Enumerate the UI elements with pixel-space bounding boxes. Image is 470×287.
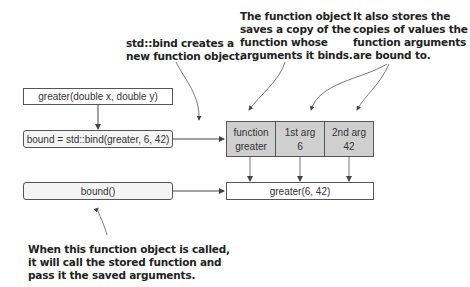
result-call-text: greater(6, 42) bbox=[270, 186, 331, 197]
cell-1st-arg-header: 1st arg bbox=[285, 127, 316, 138]
bind-statement-text: bound = std::bind(greater, 6, 42) bbox=[27, 134, 170, 145]
annotation-bind-creates: std::bind creates a new function object. bbox=[126, 37, 243, 63]
function-object-box: function greater 1st arg 6 2nd arg 42 bbox=[226, 121, 374, 157]
annotation-when-called: When this function object is called, it … bbox=[28, 243, 230, 282]
greater-declaration-text: greater(double x, double y) bbox=[38, 91, 158, 102]
cell-2nd-arg-header: 2nd arg bbox=[332, 127, 366, 138]
annotation-saves-copy: The function object saves a copy of the … bbox=[240, 10, 353, 62]
result-call-box: greater(6, 42) bbox=[226, 182, 374, 200]
cell-1st-arg-value: 6 bbox=[297, 141, 303, 152]
cell-2nd-arg: 2nd arg 42 bbox=[325, 122, 373, 156]
cell-2nd-arg-value: 42 bbox=[343, 141, 354, 152]
greater-declaration-box: greater(double x, double y) bbox=[23, 88, 173, 105]
cell-function: function greater bbox=[227, 122, 276, 156]
bound-call-box: bound() bbox=[23, 182, 173, 200]
annotation-stores-copies: It also stores the copies of values the … bbox=[353, 10, 468, 62]
cell-function-value: greater bbox=[235, 141, 267, 152]
cell-1st-arg: 1st arg 6 bbox=[276, 122, 325, 156]
bind-statement-box: bound = std::bind(greater, 6, 42) bbox=[23, 130, 173, 148]
cell-function-header: function bbox=[233, 127, 268, 138]
bound-call-text: bound() bbox=[81, 186, 115, 197]
